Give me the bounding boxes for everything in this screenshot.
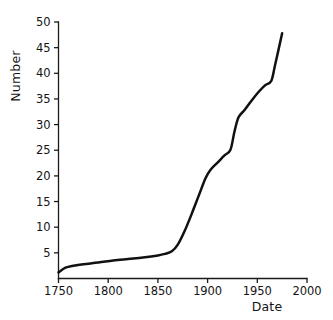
x-tick-label: 1950 [243, 284, 272, 298]
x-tick-label: 2000 [293, 284, 322, 298]
y-tick-label: 20 [36, 169, 50, 183]
x-axis-title: Date [252, 299, 283, 314]
chart-container: 5101520253035404550 17501800185019001950… [0, 0, 333, 320]
y-tick-label: 40 [36, 66, 50, 80]
y-tick-label: 30 [36, 118, 50, 132]
x-tick-label: 1900 [193, 284, 222, 298]
x-tick-label: 1800 [94, 284, 123, 298]
y-tick-label: 50 [36, 15, 50, 29]
x-tick-label: 1850 [143, 284, 172, 298]
y-axis-title: Number [8, 50, 23, 102]
x-tick-label: 1750 [44, 284, 73, 298]
line-chart: 5101520253035404550 17501800185019001950… [0, 0, 333, 320]
y-tick-label: 35 [36, 92, 50, 106]
y-tick-label: 5 [43, 246, 50, 260]
y-tick-label: 15 [36, 195, 50, 209]
y-tick-label: 45 [36, 41, 50, 55]
y-tick-label: 10 [36, 220, 50, 234]
y-tick-label: 25 [36, 143, 50, 157]
